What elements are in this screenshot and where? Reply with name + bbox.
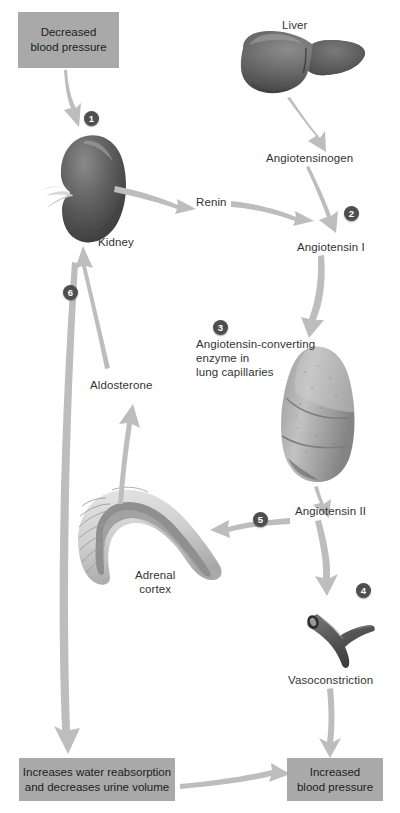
label-angiotensinogen: Angiotensinogen [266,151,353,165]
label-adrenal-cortex: Adrenal cortex [135,568,175,596]
arrow-kidney-to-renin [114,186,196,214]
label-aldosterone: Aldosterone [90,378,152,392]
arrow-adrenal-to-aldosterone [118,404,140,504]
arrow-aii-to-adrenal [210,518,290,538]
label-liver: Liver [282,18,307,32]
box-increases-water-reabsorption: Increases water reabsorption and decreas… [19,758,175,801]
label-angiotensin-ii: Angiotensin II [295,504,366,518]
arrow-liver-to-angiotensinogen [287,97,326,152]
arrow-aldosterone-to-kidney [75,246,110,369]
step-badge-6: 6 [63,285,78,300]
arrow-kidney-to-water-box [54,262,80,754]
arrow-vasoconstriction-to-bp [319,688,341,758]
arrow-ai-to-lung [301,255,325,338]
label-renin: Renin [196,195,227,209]
arrow-renin-to-ai [231,201,314,226]
flow-arrows [0,0,400,813]
arrow-angiotensinogen-to-ai [306,166,338,233]
step-badge-3: 3 [213,320,228,335]
step-badge-1: 1 [84,111,99,126]
label-ace-lung-capillaries: Angiotensin-converting enzyme in lung ca… [196,337,315,379]
arrow-aii-to-vasoconstriction [315,520,338,596]
label-angiotensin-i: Angiotensin I [297,240,365,254]
step-badge-4: 4 [356,583,371,598]
step-badge-5: 5 [253,512,268,527]
label-kidney: Kidney [98,235,134,249]
box-increased-blood-pressure: Increased blood pressure [287,758,383,801]
arrow-water-to-bp [180,763,290,789]
step-badge-2: 2 [344,206,359,221]
box-decreased-blood-pressure: Decreased blood pressure [18,12,119,68]
label-vasoconstriction: Vasoconstriction [288,673,373,687]
diagram-canvas: Decreased blood pressure Increases water… [0,0,400,813]
arrow-bp-to-kidney [64,70,81,127]
